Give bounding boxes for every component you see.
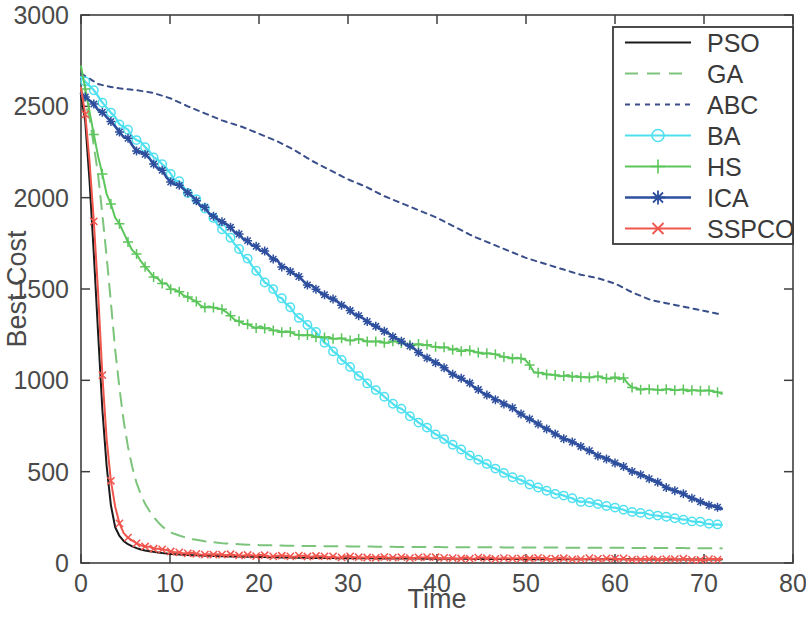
marker-asterisk bbox=[423, 354, 432, 363]
marker-asterisk bbox=[277, 262, 286, 271]
marker-plus bbox=[687, 385, 697, 395]
marker-plus bbox=[294, 330, 304, 340]
marker-asterisk bbox=[217, 217, 226, 226]
marker-plus bbox=[567, 372, 577, 382]
marker-asterisk bbox=[397, 337, 406, 346]
marker-plus bbox=[601, 374, 611, 384]
x-tick-label: 80 bbox=[779, 569, 806, 597]
marker-asterisk bbox=[704, 501, 713, 510]
marker-asterisk bbox=[243, 236, 252, 245]
marker-asterisk bbox=[525, 414, 534, 423]
legend-label-ga: GA bbox=[707, 60, 743, 88]
marker-plus bbox=[302, 330, 312, 340]
best-cost-vs-time-chart: 0102030405060708005001000150020002500300… bbox=[0, 0, 806, 618]
legend-marker-asterisk bbox=[651, 191, 665, 205]
y-tick-label: 2500 bbox=[13, 92, 69, 120]
marker-plus bbox=[337, 333, 347, 343]
marker-plus bbox=[251, 323, 261, 333]
marker-asterisk bbox=[183, 188, 192, 197]
marker-asterisk bbox=[679, 489, 688, 498]
marker-plus bbox=[379, 338, 389, 348]
marker-asterisk bbox=[363, 317, 372, 326]
legend-label-abc: ABC bbox=[707, 91, 758, 119]
marker-asterisk bbox=[294, 272, 303, 281]
marker-asterisk bbox=[260, 247, 269, 256]
x-tick-label: 60 bbox=[601, 569, 629, 597]
marker-plus bbox=[448, 345, 458, 355]
marker-asterisk bbox=[388, 332, 397, 341]
marker-asterisk bbox=[636, 470, 645, 479]
marker-asterisk bbox=[431, 358, 440, 367]
marker-asterisk bbox=[662, 483, 671, 492]
marker-asterisk bbox=[286, 267, 295, 276]
y-axis-title: Best Cost bbox=[2, 230, 32, 348]
marker-asterisk bbox=[508, 403, 517, 412]
marker-plus bbox=[277, 327, 287, 337]
marker-asterisk bbox=[602, 455, 611, 464]
marker-asterisk bbox=[448, 370, 457, 379]
marker-asterisk bbox=[593, 451, 602, 460]
marker-plus bbox=[89, 130, 99, 140]
marker-asterisk bbox=[115, 127, 124, 136]
marker-plus bbox=[576, 372, 586, 382]
marker-plus bbox=[670, 385, 680, 395]
marker-plus bbox=[217, 304, 227, 314]
marker-asterisk bbox=[354, 311, 363, 320]
chart-legend: PSOGAABCBAHSICASSPCO bbox=[613, 27, 795, 244]
marker-plus bbox=[439, 342, 449, 352]
marker-asterisk bbox=[123, 134, 132, 143]
marker-asterisk bbox=[337, 301, 346, 310]
marker-asterisk bbox=[158, 166, 167, 175]
marker-asterisk bbox=[568, 437, 577, 446]
marker-asterisk bbox=[491, 395, 500, 404]
marker-plus bbox=[123, 237, 133, 247]
marker-asterisk bbox=[149, 160, 158, 169]
marker-plus bbox=[636, 385, 646, 395]
marker-asterisk bbox=[166, 178, 175, 187]
legend-label-ba: BA bbox=[707, 122, 741, 150]
marker-plus bbox=[473, 348, 483, 358]
marker-asterisk bbox=[551, 430, 560, 439]
marker-plus bbox=[106, 199, 116, 209]
marker-asterisk bbox=[482, 391, 491, 400]
marker-asterisk bbox=[713, 503, 722, 512]
marker-plus bbox=[644, 384, 654, 394]
marker-asterisk bbox=[329, 295, 338, 304]
marker-asterisk bbox=[235, 229, 244, 238]
marker-plus bbox=[243, 319, 253, 329]
marker-asterisk bbox=[303, 280, 312, 289]
x-tick-label: 10 bbox=[156, 569, 184, 597]
marker-plus bbox=[661, 384, 671, 394]
x-tick-label: 0 bbox=[74, 569, 88, 597]
marker-asterisk bbox=[380, 327, 389, 336]
marker-asterisk bbox=[89, 100, 98, 109]
legend-label-hs: HS bbox=[707, 153, 742, 181]
marker-asterisk bbox=[106, 117, 115, 126]
marker-plus bbox=[704, 386, 714, 396]
marker-asterisk bbox=[653, 478, 662, 487]
marker-asterisk bbox=[559, 434, 568, 443]
marker-plus bbox=[610, 372, 620, 382]
marker-asterisk bbox=[474, 385, 483, 394]
marker-asterisk bbox=[175, 181, 184, 190]
marker-plus bbox=[713, 387, 723, 397]
marker-plus bbox=[584, 373, 594, 383]
marker-asterisk bbox=[405, 342, 414, 351]
x-tick-label: 50 bbox=[512, 569, 540, 597]
y-tick-label: 0 bbox=[55, 549, 69, 577]
marker-asterisk bbox=[628, 467, 637, 476]
marker-plus bbox=[456, 346, 466, 356]
marker-plus bbox=[362, 336, 372, 346]
marker-plus bbox=[208, 303, 218, 313]
y-tick-label: 2000 bbox=[13, 184, 69, 212]
marker-x bbox=[124, 534, 131, 541]
marker-asterisk bbox=[542, 424, 551, 433]
marker-plus bbox=[183, 292, 193, 302]
marker-asterisk bbox=[209, 212, 218, 221]
marker-asterisk bbox=[619, 462, 628, 471]
marker-plus bbox=[482, 348, 492, 358]
marker-asterisk bbox=[670, 486, 679, 495]
marker-asterisk bbox=[346, 306, 355, 315]
marker-asterisk bbox=[517, 409, 526, 418]
marker-plus bbox=[431, 342, 441, 352]
